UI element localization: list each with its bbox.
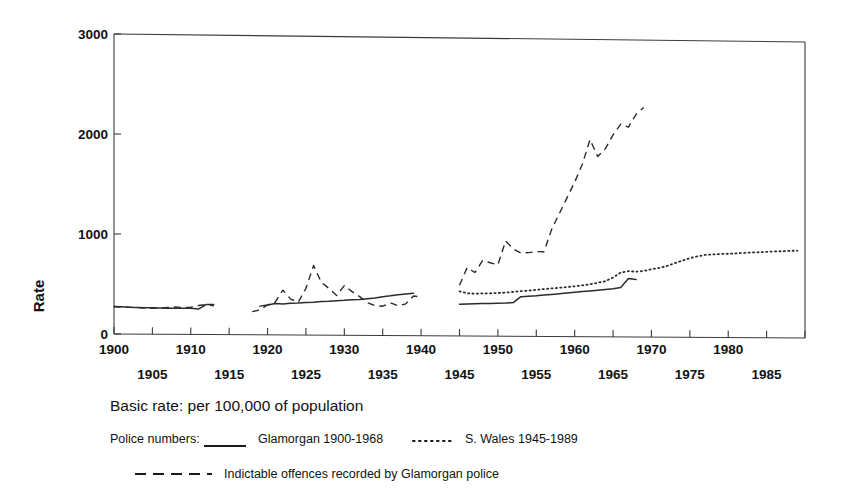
y-tick-label-1000: 1000 [78,227,108,242]
caption-legend-swales: S. Wales 1945-1989 [465,432,578,446]
caption-police-numbers-prefix: Police numbers: [110,432,200,446]
x-axis-tick-labels-upper-row: 190019101920193019401950196019701980 [99,342,743,357]
series-indictable-offences [114,107,644,311]
data-series-group [114,107,797,311]
x-tick-label-1950: 1950 [483,342,513,357]
x-tick-label-1940: 1940 [406,342,436,357]
x-tick-label-1955: 1955 [521,367,552,382]
caption-basic-rate: Basic rate: per 100,000 of population [110,397,363,414]
series-glamorgan-police [114,279,636,309]
figure-container: 0 1000 2000 3000 Rate 190019101920193019… [0,0,846,503]
x-tick-label-1975: 1975 [675,367,706,382]
x-tick-label-1970: 1970 [636,342,666,357]
y-axis-title: Rate [30,280,47,313]
x-tick-label-1960: 1960 [560,342,590,357]
x-tick-label-1935: 1935 [368,367,399,382]
x-tick-label-1945: 1945 [444,367,475,382]
y-axis-ticks [114,34,121,334]
y-tick-label-0: 0 [100,327,108,342]
y-axis-tick-labels: 0 1000 2000 3000 [78,27,108,342]
x-tick-label-1905: 1905 [137,367,168,382]
x-tick-label-1925: 1925 [291,367,322,382]
plot-frame [114,34,805,338]
x-tick-label-1930: 1930 [329,342,359,357]
x-tick-label-1980: 1980 [713,342,743,357]
caption-block: Basic rate: per 100,000 of population Po… [110,397,578,481]
x-tick-label-1900: 1900 [99,342,129,357]
x-tick-label-1965: 1965 [598,367,629,382]
x-tick-label-1920: 1920 [253,342,283,357]
caption-legend-indictable: Indictable offences recorded by Glamorga… [224,467,499,481]
caption-legend-glamorgan: Glamorgan 1900-1968 [258,432,383,446]
x-tick-label-1915: 1915 [214,367,245,382]
y-tick-label-3000: 3000 [78,27,108,42]
series-south-wales-police [460,251,798,294]
line-chart: 0 1000 2000 3000 Rate 190019101920193019… [0,0,846,503]
x-tick-label-1910: 1910 [176,342,206,357]
x-axis-tick-labels-lower-row: 190519151925193519451955196519751985 [137,367,782,382]
x-tick-label-1985: 1985 [752,367,783,382]
y-tick-label-2000: 2000 [78,127,108,142]
frame-top-border [114,34,805,42]
